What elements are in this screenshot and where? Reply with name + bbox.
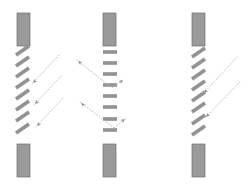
panel-left-slat-edge-8 (16, 124, 29, 133)
panel-left-slat-edge-1 (16, 46, 29, 55)
panel-left-bottom-block (17, 144, 30, 177)
panel-right-incident-ray-2 (205, 82, 240, 118)
panel-right-slat-edge-1 (192, 48, 205, 57)
panel-right-slat-edge-6 (192, 103, 205, 112)
panel-right-slat-edge-8 (192, 126, 205, 135)
middle-louver-panel (103, 13, 117, 177)
panel-left-slat-edge-4 (16, 79, 29, 88)
panel-right-top-block (192, 13, 205, 46)
panel-middle-top-block (103, 13, 116, 46)
panel-left-slat-edge-6 (16, 101, 29, 110)
panel-right-slat-edge-5 (192, 92, 205, 101)
panel-right-slat-edge-3 (192, 70, 205, 79)
panel-left-slat-edge-7 (16, 112, 29, 121)
panel-left-slat-edge-5 (16, 90, 29, 99)
panel-right-slat-edge-7 (192, 115, 205, 124)
panel-left-top-block (17, 13, 30, 46)
panel-right-incident-ray-1 (203, 57, 237, 94)
panel-left-incident-ray-2 (34, 76, 61, 105)
panel-left-incident-ray-3 (36, 98, 63, 127)
left-louver-panel (16, 13, 30, 177)
panel-left-slat-edge-3 (16, 68, 29, 77)
panel-left-incident-ray-1 (32, 55, 59, 84)
diagram-canvas (0, 0, 248, 190)
panel-left-slat-edge-2 (16, 57, 29, 66)
panel-right-arrowhead-2-icon (205, 113, 211, 119)
panel-right-slat-edge-4 (192, 81, 205, 90)
arrowhead-glyph (119, 79, 125, 85)
panel-middle-bottom-block (103, 144, 116, 177)
panel-middle-arrowhead-3-icon (119, 79, 125, 85)
arrowhead-glyph (205, 113, 211, 119)
right-louver-panel (192, 13, 205, 177)
louver-ray-diagram (0, 0, 248, 190)
panel-right-bottom-block (192, 144, 205, 177)
panel-right-slat-edge-2 (192, 59, 205, 68)
